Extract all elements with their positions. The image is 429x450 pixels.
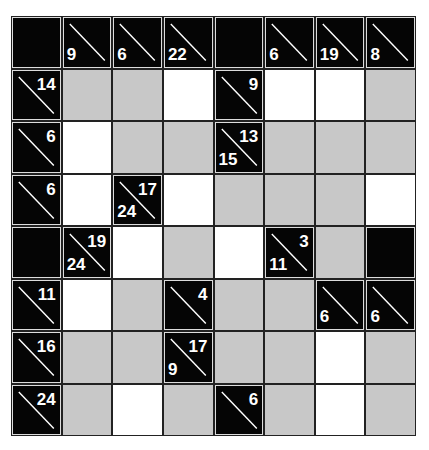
entry-cell[interactable] — [316, 385, 365, 436]
clue-cell: 6 — [316, 280, 365, 331]
clue-cell: 8 — [366, 17, 415, 68]
down-clue: 19 — [320, 46, 339, 63]
clue-cell: 1724 — [113, 175, 162, 226]
across-clue: 11 — [38, 286, 56, 303]
entry-cell[interactable] — [113, 227, 162, 278]
across-clue: 4 — [198, 286, 207, 303]
entry-cell[interactable] — [265, 175, 314, 226]
across-clue: 6 — [46, 181, 55, 198]
entry-cell[interactable] — [113, 385, 162, 436]
entry-cell[interactable] — [63, 385, 112, 436]
entry-cell[interactable] — [265, 122, 314, 173]
entry-cell[interactable] — [63, 175, 112, 226]
entry-cell[interactable] — [366, 385, 415, 436]
entry-cell[interactable] — [164, 175, 213, 226]
entry-cell[interactable] — [113, 280, 162, 331]
across-clue: 9 — [249, 76, 258, 93]
entry-cell[interactable] — [63, 332, 112, 383]
clue-cell: 1315 — [215, 122, 264, 173]
entry-cell[interactable] — [164, 122, 213, 173]
clue-cell: 16 — [12, 332, 61, 383]
clue-cell: 9 — [63, 17, 112, 68]
across-clue: 14 — [37, 76, 56, 93]
down-clue: 11 — [269, 256, 287, 273]
clue-cell: 24 — [12, 385, 61, 436]
blocked-cell — [215, 17, 264, 68]
across-clue: 16 — [37, 338, 56, 355]
down-clue: 6 — [320, 308, 329, 325]
entry-cell[interactable] — [316, 122, 365, 173]
entry-cell[interactable] — [316, 175, 365, 226]
entry-cell[interactable] — [316, 332, 365, 383]
entry-cell[interactable] — [164, 227, 213, 278]
clue-cell: 22 — [164, 17, 213, 68]
entry-cell[interactable] — [164, 385, 213, 436]
down-clue: 24 — [117, 203, 136, 220]
entry-cell[interactable] — [164, 70, 213, 121]
entry-cell[interactable] — [366, 70, 415, 121]
down-clue: 9 — [67, 46, 76, 63]
entry-cell[interactable] — [215, 175, 264, 226]
down-clue: 6 — [117, 46, 126, 63]
clue-cell: 6 — [12, 175, 61, 226]
entry-cell[interactable] — [265, 280, 314, 331]
clue-cell: 6 — [215, 385, 264, 436]
clue-cell: 6 — [265, 17, 314, 68]
across-clue: 19 — [87, 233, 106, 250]
down-clue: 22 — [168, 46, 187, 63]
down-clue: 6 — [269, 46, 278, 63]
clue-cell: 9 — [215, 70, 264, 121]
down-clue: 24 — [67, 256, 86, 273]
entry-cell[interactable] — [63, 122, 112, 173]
entry-cell[interactable] — [215, 280, 264, 331]
entry-cell[interactable] — [215, 227, 264, 278]
clue-cell: 311 — [265, 227, 314, 278]
clue-cell: 4 — [164, 280, 213, 331]
across-clue: 3 — [299, 233, 308, 250]
clue-cell: 6 — [366, 280, 415, 331]
entry-cell[interactable] — [265, 385, 314, 436]
entry-cell[interactable] — [366, 332, 415, 383]
across-clue: 24 — [37, 391, 56, 408]
entry-cell[interactable] — [63, 70, 112, 121]
across-clue: 6 — [46, 128, 55, 145]
across-clue: 6 — [249, 391, 258, 408]
entry-cell[interactable] — [316, 70, 365, 121]
entry-cell[interactable] — [265, 332, 314, 383]
across-clue: 17 — [189, 338, 208, 355]
across-clue: 13 — [239, 128, 258, 145]
entry-cell[interactable] — [316, 227, 365, 278]
blocked-cell — [366, 227, 415, 278]
entry-cell[interactable] — [113, 332, 162, 383]
entry-cell[interactable] — [215, 332, 264, 383]
entry-cell[interactable] — [366, 122, 415, 173]
entry-cell[interactable] — [113, 70, 162, 121]
blocked-cell — [12, 227, 61, 278]
down-clue: 15 — [219, 151, 238, 168]
clue-cell: 14 — [12, 70, 61, 121]
down-clue: 8 — [370, 46, 379, 63]
entry-cell[interactable] — [63, 280, 112, 331]
entry-cell[interactable] — [265, 70, 314, 121]
clue-cell: 6 — [113, 17, 162, 68]
down-clue: 9 — [168, 361, 177, 378]
entry-cell[interactable] — [113, 122, 162, 173]
blocked-cell — [12, 17, 61, 68]
across-clue: 17 — [138, 181, 157, 198]
clue-cell: 6 — [12, 122, 61, 173]
down-clue: 6 — [370, 308, 379, 325]
clue-cell: 11 — [12, 280, 61, 331]
clue-cell: 19 — [316, 17, 365, 68]
entry-cell[interactable] — [366, 175, 415, 226]
clue-cell: 1924 — [63, 227, 112, 278]
clue-cell: 179 — [164, 332, 213, 383]
kakuro-grid: 9622619814961315617241924311114661617924… — [11, 16, 416, 436]
